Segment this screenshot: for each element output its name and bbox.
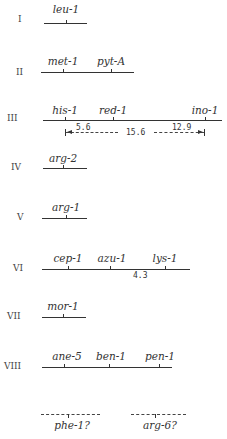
gene-tick (109, 364, 110, 368)
gene-tick (63, 165, 64, 169)
gene-label: arg-2 (49, 152, 77, 164)
chromosome-line (42, 367, 172, 368)
chromosome-line (42, 218, 87, 219)
gene-label: phe-1? (54, 419, 90, 431)
gene-label: ben-1 (96, 350, 126, 362)
chromosome-line (42, 317, 86, 318)
unassigned-line-phe (41, 414, 100, 415)
gene-tick (63, 314, 64, 318)
gene-label: mor-1 (47, 300, 79, 312)
gene-tick (159, 364, 160, 368)
chromosome-label: V (17, 212, 24, 222)
gene-label: lys-1 (153, 252, 178, 264)
chromosome-line (43, 168, 87, 169)
chromosome-label: IV (11, 162, 21, 172)
gene-tick (68, 414, 69, 418)
gene-label: cep-1 (53, 252, 82, 264)
gene-label: ane-5 (52, 350, 81, 362)
gene-label: pen-1 (145, 350, 175, 362)
gene-tick (68, 266, 69, 270)
chromosome-label: VII (7, 311, 21, 321)
chromosome-label: VI (13, 263, 23, 273)
gene-label: arg-1 (52, 201, 80, 213)
gene-label: azu-1 (98, 252, 127, 264)
chromosome-label: VIII (4, 361, 21, 371)
gene-tick (155, 414, 156, 418)
gene-tick (110, 266, 111, 270)
gene-tick (64, 364, 65, 368)
arrow-icon (0, 0, 227, 439)
distance-azu-lys: 4.3 (133, 271, 147, 280)
gene-label: arg-6? (143, 419, 177, 431)
chromosome-line (42, 269, 190, 270)
unassigned-line-arg (131, 414, 186, 415)
gene-tick (165, 266, 166, 270)
gene-tick (66, 215, 67, 219)
